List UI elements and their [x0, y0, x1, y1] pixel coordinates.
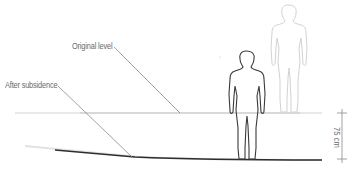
subsided-level-line	[25, 146, 322, 160]
leader-line-after	[58, 86, 132, 157]
leader-line-original	[114, 47, 180, 113]
original-level-label: Original level	[72, 41, 112, 51]
dimension-value-label: 75 cm	[332, 127, 342, 148]
subsidence-diagram: Original level After subsidence 75 cm	[0, 0, 363, 170]
after-subsidence-label: After subsidence	[5, 80, 57, 90]
figure-subsided-icon	[229, 51, 265, 159]
figure-original-icon	[271, 5, 307, 112]
stray-mark	[219, 56, 220, 57]
